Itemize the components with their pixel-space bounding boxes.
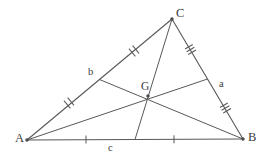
triangle-centroid-figure: A B C G b a c [0, 0, 271, 158]
tick-group-ac-lower [64, 98, 74, 109]
centroid-dot-G [146, 94, 149, 97]
side-label-c: c [108, 143, 113, 154]
vertex-label-C: C [176, 7, 184, 20]
vertex-dot-B [241, 137, 244, 140]
triangle-sides [27, 19, 243, 140]
vertex-label-A: A [15, 132, 24, 145]
centroid-label-G: G [141, 81, 149, 93]
vertex-dots [25, 17, 244, 141]
medians [27, 19, 243, 140]
tick-group-bc-upper [185, 44, 196, 54]
side-label-b: b [88, 67, 93, 78]
side-label-a: a [219, 79, 224, 90]
geometry-canvas [0, 0, 271, 158]
vertex-dot-C [170, 17, 173, 20]
median-from-A [27, 79, 208, 140]
vertex-dot-A [25, 138, 28, 141]
tick-group-bc-lower [220, 103, 231, 113]
vertex-label-B: B [248, 131, 256, 144]
